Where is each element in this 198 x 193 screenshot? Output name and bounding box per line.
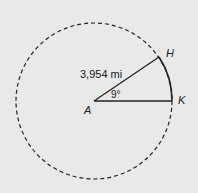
point-k-label: K [178, 94, 185, 106]
angle-label: 9° [111, 89, 121, 100]
point-a-label: A [84, 104, 91, 116]
radius-label: 3,954 mi [80, 68, 122, 80]
point-h-label: H [166, 47, 174, 59]
circle-diagram [0, 0, 198, 193]
arc-hk [159, 57, 172, 101]
